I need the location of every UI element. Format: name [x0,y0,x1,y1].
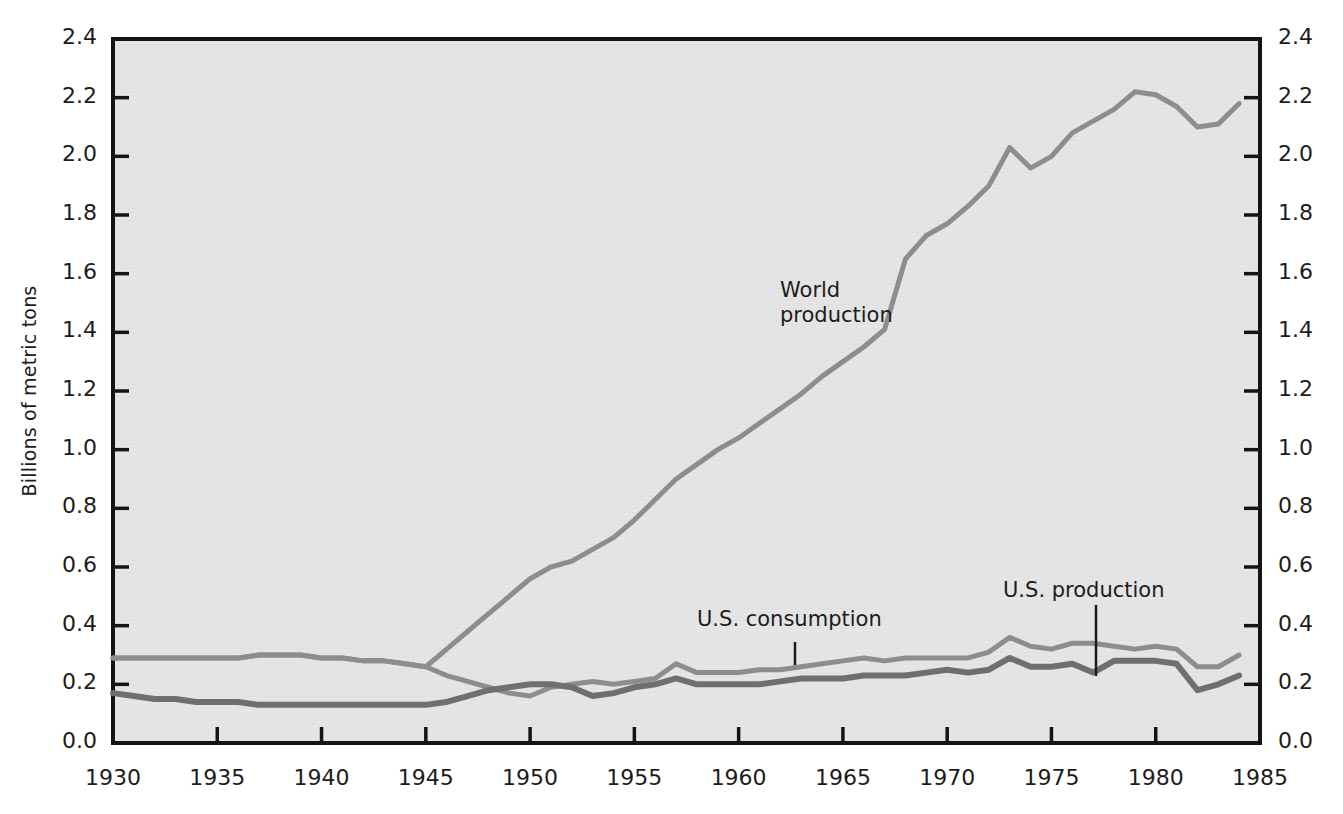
x-tick-label: 1950 [480,765,580,790]
x-tick-label: 1945 [376,765,476,790]
y-tick-label-right: 0.6 [1278,552,1313,577]
x-tick-label: 1960 [689,765,789,790]
y-tick-label-right: 2.2 [1278,83,1313,108]
chart-canvas [0,0,1343,814]
x-tick-label: 1930 [63,765,163,790]
y-tick-label-right: 1.4 [1278,317,1313,342]
us-consumption-label-line1: U.S. consumption [697,607,882,632]
y-tick-label-left: 1.8 [62,200,97,225]
x-tick-label: 1965 [793,765,893,790]
x-tick-label: 1955 [584,765,684,790]
world-production-label-line1: World [780,278,893,303]
y-tick-label-left: 1.0 [62,435,97,460]
chart-figure: Billions of metric tons 0.00.00.20.20.40… [0,0,1343,814]
y-tick-label-right: 2.0 [1278,141,1313,166]
y-tick-label-left: 1.4 [62,317,97,342]
world-production-label-line2: production [780,303,893,328]
y-tick-label-left: 1.2 [62,376,97,401]
y-tick-label-left: 0.0 [62,728,97,753]
y-tick-label-right: 1.8 [1278,200,1313,225]
y-tick-label-right: 0.0 [1278,728,1313,753]
y-tick-label-left: 2.4 [62,24,97,49]
y-tick-label-left: 2.0 [62,141,97,166]
y-tick-label-right: 1.2 [1278,376,1313,401]
y-axis-title-text: Billions of metric tons [18,286,40,497]
y-tick-label-right: 2.4 [1278,24,1313,49]
y-tick-label-left: 2.2 [62,83,97,108]
y-tick-label-left: 0.4 [62,611,97,636]
y-axis-title: Billions of metric tons [14,39,44,743]
us-consumption-label: U.S. consumption [697,607,882,632]
plot-area-background [113,39,1260,743]
y-tick-label-right: 1.6 [1278,259,1313,284]
us-production-label: U.S. production [1003,578,1165,603]
x-tick-label: 1970 [897,765,997,790]
world-production-label: Worldproduction [780,278,893,328]
y-tick-label-left: 0.2 [62,669,97,694]
y-tick-label-right: 0.8 [1278,493,1313,518]
x-tick-label: 1935 [167,765,267,790]
x-tick-label: 1940 [272,765,372,790]
y-tick-label-left: 0.6 [62,552,97,577]
y-tick-label-right: 0.4 [1278,611,1313,636]
y-tick-label-left: 1.6 [62,259,97,284]
us-production-label-line1: U.S. production [1003,578,1165,603]
x-tick-label: 1980 [1106,765,1206,790]
x-tick-label: 1985 [1210,765,1310,790]
x-tick-label: 1975 [1001,765,1101,790]
y-tick-label-left: 0.8 [62,493,97,518]
y-tick-label-right: 1.0 [1278,435,1313,460]
y-tick-label-right: 0.2 [1278,669,1313,694]
